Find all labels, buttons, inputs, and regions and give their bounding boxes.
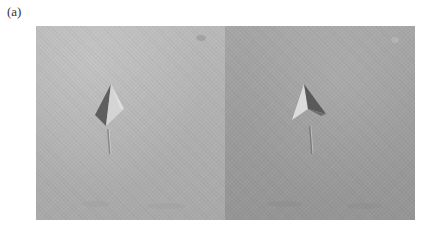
indentation-mark-left (36, 26, 225, 220)
indentation-mark-right (225, 26, 415, 220)
figure-label: (a) (7, 4, 21, 20)
micrograph-panel-right (225, 26, 415, 220)
micrograph-figure (36, 26, 415, 220)
micrograph-panel-left (36, 26, 225, 220)
